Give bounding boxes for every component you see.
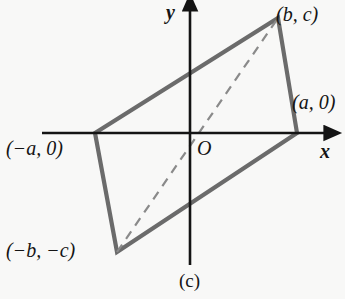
dashed-diagonal: [117, 18, 278, 252]
vertex-label-neg-a-0: (−a, 0): [6, 138, 63, 158]
origin-label: O: [197, 138, 211, 158]
vertex-label-neg-b-neg-c: (−b, −c): [6, 240, 75, 260]
x-axis-label: x: [320, 141, 330, 161]
y-axis-label: y: [166, 2, 175, 22]
vertex-label-b-c: (b, c): [276, 4, 318, 24]
figure-caption: (c): [179, 271, 200, 290]
vertex-label-a-0: (a, 0): [292, 92, 335, 112]
geometry-figure: (b, c) (a, 0) (−b, −c) (−a, 0) O x y (c): [0, 0, 345, 299]
parallelogram-shape: [95, 18, 297, 252]
